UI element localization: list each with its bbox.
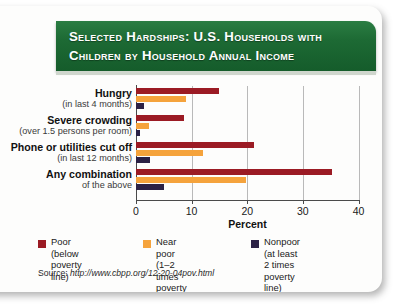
figure-card-inner: Selected Hardships: U.S. Households with… — [0, 6, 382, 292]
legend-swatch-poor — [38, 240, 46, 248]
source-prefix: Source: — [38, 268, 70, 278]
figure-page: Selected Hardships: U.S. Households with… — [0, 0, 408, 308]
source-note: Source: http://www.cbpp.org/12-20-04pov.… — [38, 268, 214, 278]
legend-swatch-near-poor — [143, 240, 151, 248]
source-url: http://www.cbpp.org/12-20-04pov.html — [70, 268, 214, 278]
figure-card: Selected Hardships: U.S. Households with… — [0, 6, 382, 292]
legend-label-nonpoor: Nonpoor (at least 2 times poverty line) — [264, 236, 300, 292]
legend-label-near-poor: Near poor (1–2 times poverty line) — [156, 236, 187, 292]
chart-legend: Poor (below poverty line)Near poor (1–2 … — [0, 6, 382, 292]
legend-swatch-nonpoor — [251, 240, 259, 248]
